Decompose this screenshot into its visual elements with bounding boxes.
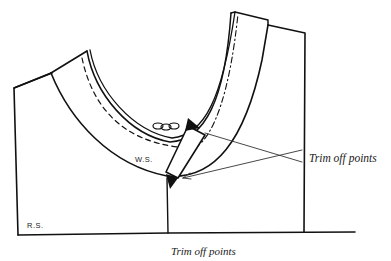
figure-caption: Trim off points <box>171 245 236 257</box>
neckline-edge-inner <box>90 12 235 138</box>
center-seam <box>167 178 168 233</box>
neckline-illustration <box>0 0 391 261</box>
diagram-stage: W.S. R.S. Trim off points Trim off point… <box>0 0 391 261</box>
left-facing-shoulder <box>51 51 87 73</box>
left-shoulder <box>14 73 51 88</box>
callout-label: Trim off points <box>309 152 377 164</box>
facing-outer-curve <box>51 25 268 176</box>
right-bodice-outline <box>268 25 305 232</box>
leader-line-lower <box>183 150 302 178</box>
left-bodice-outline <box>14 73 52 235</box>
wrong-side-label: W.S. <box>135 155 153 164</box>
right-side-label: R.S. <box>27 221 44 230</box>
